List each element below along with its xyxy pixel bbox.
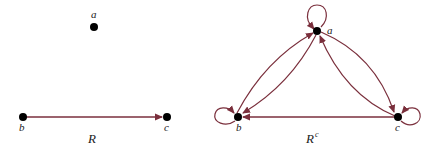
node-b-label: b — [19, 121, 25, 133]
node-c-label: c — [395, 121, 400, 133]
node-c — [163, 113, 171, 121]
edge-b-to-a — [237, 33, 313, 113]
loop-b — [215, 108, 235, 124]
node-c — [394, 113, 402, 121]
node-b — [19, 113, 27, 121]
edge-a-to-b — [243, 35, 316, 113]
graph-rc-caption: R — [305, 131, 314, 146]
graph-r-complement: a b c R c — [215, 5, 420, 146]
loop-c — [401, 108, 420, 125]
node-b — [234, 113, 242, 121]
loop-a-arrow — [309, 23, 314, 29]
edge-a-to-c — [321, 32, 394, 112]
node-a-label: a — [91, 8, 97, 20]
edge-c-to-a — [320, 36, 395, 116]
graph-r: a b c R — [19, 8, 171, 146]
diagram-canvas: a b c R a b c R c — [0, 0, 432, 151]
node-c-label: c — [164, 121, 169, 133]
node-a — [313, 27, 321, 35]
node-b-label: b — [236, 121, 242, 133]
node-a — [90, 23, 98, 31]
graph-rc-caption-superscript: c — [315, 130, 319, 139]
node-a-label: a — [327, 24, 333, 36]
graph-r-caption: R — [87, 131, 96, 146]
